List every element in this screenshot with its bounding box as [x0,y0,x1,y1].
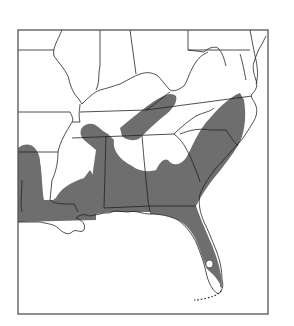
range-gap [40,152,60,200]
lake-okeechobee [206,260,213,267]
range-map [0,0,294,326]
